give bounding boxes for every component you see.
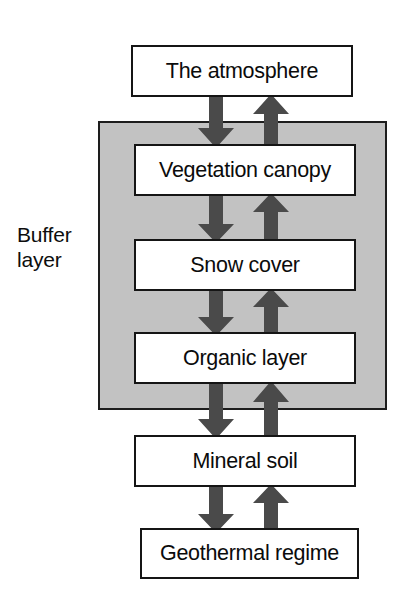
arrow-organic-to-mineral-down bbox=[197, 382, 235, 440]
node-organic-layer: Organic layer bbox=[134, 332, 356, 384]
node-geothermal-regime: Geothermal regime bbox=[140, 528, 359, 579]
arrow-atmosphere-to-vegetation-down bbox=[197, 95, 235, 149]
node-snow-cover: Snow cover bbox=[134, 239, 356, 291]
node-vegetation-canopy: Vegetation canopy bbox=[134, 144, 356, 196]
arrow-geothermal-to-mineral-up bbox=[252, 484, 290, 534]
node-the-atmosphere: The atmosphere bbox=[131, 45, 353, 97]
node-label-snow-cover: Snow cover bbox=[190, 253, 299, 278]
arrow-mineral-to-organic-up bbox=[252, 381, 290, 440]
arrow-snow-to-organic-down bbox=[197, 289, 235, 337]
arrow-mineral-to-geothermal-down bbox=[197, 485, 235, 534]
node-label-the-atmosphere: The atmosphere bbox=[166, 59, 318, 84]
buffer-layer-caption-line2: layer bbox=[17, 247, 95, 272]
node-label-mineral-soil: Mineral soil bbox=[192, 449, 297, 474]
node-label-vegetation-canopy: Vegetation canopy bbox=[159, 158, 331, 183]
arrow-snow-to-vegetation-up bbox=[252, 193, 290, 244]
buffer-layer-caption-line1: Buffer bbox=[17, 222, 95, 247]
node-label-organic-layer: Organic layer bbox=[183, 346, 307, 371]
node-label-geothermal-regime: Geothermal regime bbox=[160, 541, 339, 566]
arrow-vegetation-to-snow-down bbox=[197, 194, 235, 244]
arrow-vegetation-to-atmosphere-up bbox=[252, 94, 290, 149]
buffer-layer-caption: Buffer layer bbox=[17, 222, 95, 272]
node-mineral-soil: Mineral soil bbox=[134, 435, 356, 487]
arrow-organic-to-snow-up bbox=[252, 288, 290, 337]
diagram-canvas: Buffer layer bbox=[0, 0, 412, 601]
